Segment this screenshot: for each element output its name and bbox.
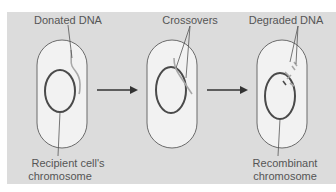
- label-degraded-dna: Degraded DNA: [244, 14, 328, 26]
- stage-2-cell: [147, 26, 197, 148]
- label-recipient-chromosome-line1: Recipient cell's: [28, 157, 108, 169]
- label-donated-dna: Donated DNA: [33, 14, 103, 26]
- label-recombinant-chromosome-line2: chromosome: [248, 170, 322, 182]
- label-recipient-chromosome-line2: chromosome: [28, 170, 92, 182]
- stage-1-cell: [37, 25, 87, 156]
- arrow-2: [207, 86, 248, 94]
- stage-3-cell: [257, 26, 307, 156]
- arrow-1: [97, 86, 138, 94]
- label-crossovers: Crossovers: [158, 14, 222, 26]
- label-recombinant-chromosome-line1: Recombinant: [248, 157, 322, 169]
